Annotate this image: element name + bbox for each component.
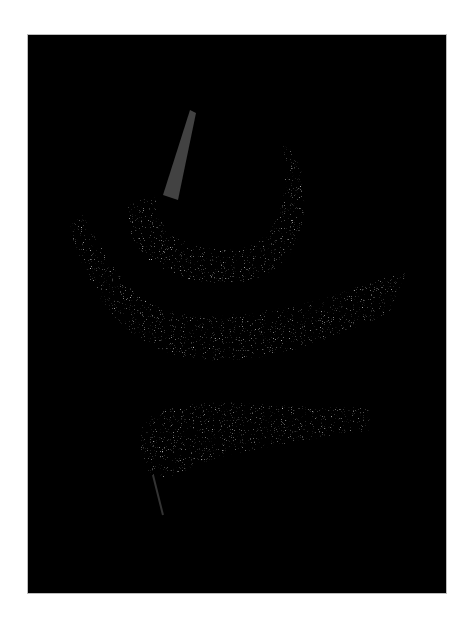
stem: [163, 110, 196, 200]
bottom-pepper-tail: [153, 475, 163, 515]
bottom-pepper: [140, 403, 373, 478]
top-pepper: [128, 145, 305, 283]
photo-frame: [27, 34, 447, 594]
peppers-illustration: [28, 35, 447, 594]
middle-pepper: [68, 215, 408, 360]
